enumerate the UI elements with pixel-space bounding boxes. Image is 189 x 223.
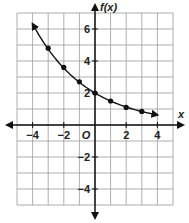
y-tick-label: 4 <box>84 55 91 67</box>
y-axis-label: f(x) <box>100 1 117 13</box>
x-tick-label: −4 <box>26 129 39 141</box>
x-axis-label: x <box>177 108 185 120</box>
data-point <box>61 65 66 70</box>
origin-label: O <box>82 129 91 141</box>
data-point <box>124 105 129 110</box>
data-point <box>92 90 97 95</box>
y-tick-label: −2 <box>77 151 90 163</box>
x-tick-label: −2 <box>58 129 71 141</box>
y-tick-label: 2 <box>84 87 90 99</box>
data-point <box>77 79 82 84</box>
data-point <box>139 109 144 114</box>
x-tick-label: 2 <box>123 129 129 141</box>
y-tick-label: −4 <box>77 183 90 195</box>
exponential-graph: −4−224642−2−4Oxf(x) <box>0 0 189 223</box>
x-tick-label: 4 <box>154 129 161 141</box>
data-point <box>46 46 51 51</box>
data-point <box>108 98 113 103</box>
y-tick-label: 6 <box>84 23 90 35</box>
axes <box>7 5 183 218</box>
